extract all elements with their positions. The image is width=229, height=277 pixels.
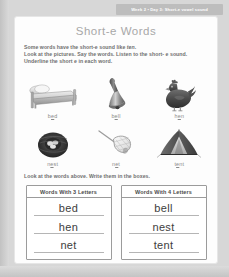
picture-label-hen: hen [175,113,185,119]
label-part-post: ll [118,113,121,119]
picture-label-bell: bell [111,113,120,119]
answer-box-4-letters: Words With 4 Letters bell nest tent [121,185,207,260]
instruction-line-3: Underline the short e in each word. [24,58,217,65]
label-part-post: d [54,113,57,119]
instructions-block: Some words have the short-e sound like t… [24,44,217,66]
nest-icon [24,124,82,160]
page-gutter-shadow-left [0,0,9,277]
answer-box-body: bed hen net [27,198,111,259]
worksheet-sheet: Short-e Words Some words have the short-… [14,16,218,264]
instruction-line-2: Look at the pictures. Say the words. Lis… [24,51,217,58]
answer-line[interactable]: hen [34,221,104,235]
picture-cell-hen: hen [148,76,210,119]
picture-label-tent: tent [174,161,184,167]
picture-label-net: net [112,161,120,167]
instruction-line-1-post: . [135,44,137,50]
answer-box-body: bell nest tent [122,198,206,259]
picture-label-nest: nest [47,161,58,167]
instruction-line-1: Some words have the short-e sound like t… [24,44,217,51]
answer-line[interactable]: bell [129,202,199,216]
hen-icon [150,76,208,112]
net-icon [87,124,145,160]
lesson-banner: Week 2 • Day 3: Short-e vowel sound [116,4,223,15]
label-part-post: t [118,161,120,167]
label-part-post: nt [179,161,184,167]
picture-row: bed [21,71,211,119]
answer-box-header: Words With 4 Letters [122,186,206,199]
answer-line[interactable]: bed [34,202,104,216]
picture-label-bed: bed [48,113,58,119]
worksheet-page: Week 2 • Day 3: Short-e vowel sound Shor… [0,0,229,277]
answer-line[interactable]: nest [129,221,199,235]
page-gutter-shadow-bottom [0,266,229,277]
write-instruction: Look at the words above. Write them in t… [24,173,217,179]
picture-cell-tent: tent [148,124,210,167]
picture-grid: bed [15,71,217,167]
label-part-post: n [181,113,184,119]
bell-icon [87,76,145,112]
answer-line[interactable]: tent [129,239,199,253]
answer-box-header: Words With 3 Letters [27,186,111,199]
page-title: Short-e Words [15,25,217,37]
label-part-post: st [54,161,59,167]
picture-row: nest [21,119,211,167]
tent-icon [150,124,208,160]
instruction-line-1-pre: Some words have the short-e sound like [24,44,127,50]
picture-cell-nest: nest [22,124,84,167]
picture-cell-bed: bed [22,76,84,119]
picture-cell-bell: bell [85,76,147,119]
answer-boxes: Words With 3 Letters bed hen net Words W… [15,185,217,260]
picture-cell-net: net [85,124,147,167]
instruction-example-word: ten [127,44,135,50]
lesson-banner-text: Week 2 • Day 3: Short-e vowel sound [131,7,208,12]
bed-icon [24,76,82,112]
answer-box-3-letters: Words With 3 Letters bed hen net [26,185,112,260]
answer-line[interactable]: net [34,239,104,253]
